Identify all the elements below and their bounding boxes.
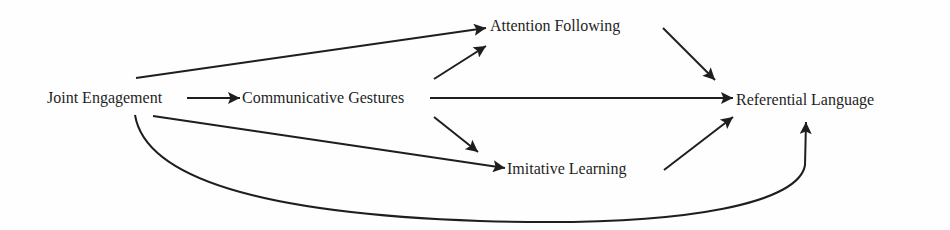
node-communicative-gestures: Communicative Gestures — [242, 90, 404, 106]
node-joint-engagement: Joint Engagement — [47, 90, 162, 106]
edge-attention-to-referential — [663, 28, 715, 80]
edge-joint-to-attention — [136, 28, 486, 78]
edge-joint-to-referential — [135, 115, 806, 222]
node-referential-language: Referential Language — [736, 92, 874, 108]
node-attention-following: Attention Following — [490, 18, 620, 34]
edge-imitative-to-referential — [664, 117, 733, 170]
edge-communicative-to-attention — [434, 46, 486, 79]
path-diagram: Joint Engagement Communicative Gestures … — [0, 0, 950, 230]
edge-communicative-to-imitative — [434, 117, 478, 152]
edge-joint-to-imitative — [153, 116, 505, 168]
diagram-edges — [0, 0, 950, 230]
node-imitative-learning: Imitative Learning — [507, 161, 627, 177]
